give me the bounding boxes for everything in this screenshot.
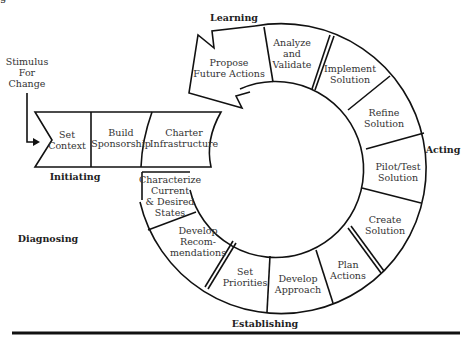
step-analyze-validate: AnalyzeandValidate bbox=[273, 37, 312, 70]
step-develop-approach: DevelopApproach bbox=[275, 273, 321, 295]
step-charter-infrastructure: CharterInfrastructure bbox=[150, 127, 218, 149]
step-pilot-test-solution: Pilot/TestSolution bbox=[375, 161, 420, 183]
step-build-sponsorship: BuildSponsorship bbox=[91, 127, 151, 149]
step-refine-solution: RefineSolution bbox=[364, 107, 404, 129]
phase-diagnosing: Diagnosing bbox=[18, 233, 78, 244]
step-set-priorities: SetPriorities bbox=[223, 266, 268, 288]
phase-establishing: Establishing bbox=[232, 318, 298, 329]
phase-initiating: Initiating bbox=[50, 171, 101, 182]
phase-acting: Acting bbox=[426, 144, 461, 155]
step-plan-actions: PlanActions bbox=[330, 259, 366, 281]
stimulus-arrow-line bbox=[27, 93, 38, 142]
step-implement-solution: ImplementSolution bbox=[324, 63, 376, 85]
step-set-context: SetContext bbox=[48, 129, 86, 151]
stimulus-label: StimulusForChange bbox=[6, 56, 49, 89]
step-develop-recommendations: DevelopRecom-mendations bbox=[170, 225, 226, 258]
divider bbox=[362, 188, 421, 203]
step-propose-future-actions: ProposeFuture Actions bbox=[193, 57, 265, 79]
step-characterize-states: CharacterizeCurrent& DesiredStates bbox=[139, 174, 201, 218]
divider bbox=[366, 133, 424, 149]
stimulus-arrow-head-icon bbox=[33, 138, 40, 146]
step-create-solution: CreateSolution bbox=[365, 214, 405, 236]
phase-learning: Learning bbox=[210, 12, 258, 23]
